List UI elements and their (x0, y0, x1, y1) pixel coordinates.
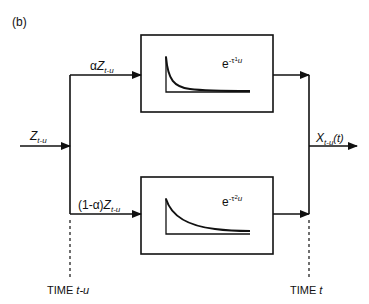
input-label: Zt-u (30, 130, 47, 142)
lower-branch-label: (1-α)Zt-u (78, 199, 120, 211)
time-label-right: TIME t (290, 285, 322, 296)
lower-decay-box (141, 177, 273, 254)
panel-label: (b) (12, 16, 27, 28)
output-label: Xt-u(t) (316, 132, 344, 144)
upper-decay-box (141, 35, 273, 112)
lower-box-formula: e-τ2u (222, 196, 242, 208)
time-label-left: TIME t-u (47, 285, 89, 296)
upper-box-formula: e-τ1u (222, 58, 242, 70)
upper-branch-label: αZt-u (90, 60, 114, 72)
diagram-canvas (0, 0, 369, 304)
